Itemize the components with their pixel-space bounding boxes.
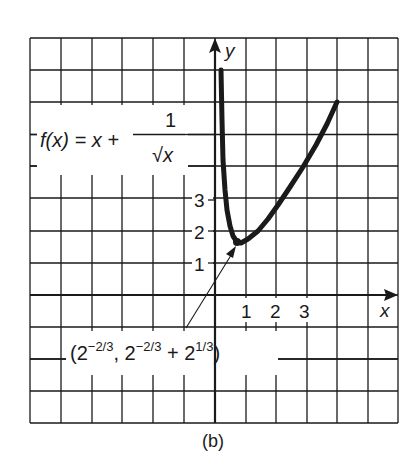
minimum-point-marker (233, 238, 241, 246)
y-tick-label: 2 (194, 222, 205, 243)
figure-caption: (b) (202, 431, 224, 451)
y-axis-label: y (223, 40, 236, 61)
x-tick-label: 2 (270, 301, 281, 322)
function-curve (221, 70, 337, 243)
y-tick-label: 1 (194, 254, 205, 275)
y-tick-label: 3 (194, 190, 205, 211)
x-tick-label: 3 (299, 301, 310, 322)
x-axis-label: x (379, 300, 391, 321)
x-tick-label: 1 (241, 301, 252, 322)
function-graph: y x 1 2 3 3 2 1 f(x) = x + 1 √x (2−2/3, … (0, 0, 419, 472)
formula-numerator: 1 (165, 109, 176, 131)
formula-denominator: √x (152, 144, 174, 166)
formula-lhs: f(x) = x + (40, 129, 119, 151)
annotation-arrow-head-icon (226, 246, 236, 258)
